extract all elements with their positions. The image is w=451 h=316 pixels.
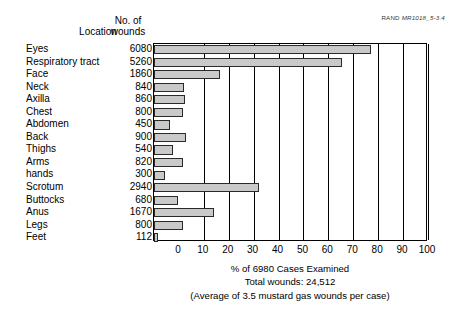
bar-row [154, 69, 426, 82]
row-wound-count: 680 [135, 194, 152, 207]
bar [154, 183, 259, 192]
row-location-label: Arms [26, 156, 49, 169]
table-row: Neck840 [26, 81, 152, 94]
row-location-label: Eyes [26, 43, 48, 56]
bar-row [154, 207, 426, 220]
plot-area [153, 43, 427, 241]
row-wound-count: 860 [135, 93, 152, 106]
bar-row [154, 107, 426, 120]
row-location-label: Anus [26, 206, 49, 219]
bar-row [154, 169, 426, 182]
row-location-label: Legs [26, 219, 48, 232]
column-header-wounds: No. of wounds [104, 15, 152, 38]
column-header-wounds-line2: wounds [104, 26, 152, 37]
table-row: Buttocks680 [26, 194, 152, 207]
row-wound-count: 1670 [130, 206, 152, 219]
bar [154, 208, 214, 217]
row-wound-count: 450 [135, 118, 152, 131]
table-row: Chest800 [26, 106, 152, 119]
bar-row [154, 44, 426, 57]
table-row: Axilla860 [26, 93, 152, 106]
row-wound-count: 820 [135, 156, 152, 169]
row-location-label: Scrotum [26, 181, 63, 194]
row-wound-count: 300 [135, 168, 152, 181]
table-row: Scrotum2940 [26, 181, 152, 194]
caption-line-1: % of 6980 Cases Examined [153, 262, 427, 275]
table-row: Legs800 [26, 219, 152, 232]
caption-line-3: (Average of 3.5 mustard gas wounds per c… [153, 289, 427, 302]
bar-row [154, 157, 426, 170]
bar-row [154, 94, 426, 107]
row-location-label: Respiratory tract [26, 56, 99, 69]
table-row: Feet112 [26, 231, 152, 244]
bar-row [154, 144, 426, 157]
table-row: Thighs540 [26, 143, 152, 156]
row-location-label: Buttocks [26, 194, 64, 207]
table-row: Eyes6080 [26, 43, 152, 56]
source-tag-prefix: RAND [381, 14, 401, 21]
table-row: Arms820 [26, 156, 152, 169]
gridline [428, 44, 429, 240]
table-row: hands300 [26, 168, 152, 181]
table-row: Respiratory tract5260 [26, 56, 152, 69]
bar [154, 58, 342, 67]
table-row: Face1860 [26, 68, 152, 81]
column-header-wounds-line1: No. of [104, 15, 152, 26]
source-tag: RAND MR1018_5-3.4 [381, 14, 445, 21]
row-location-label: hands [26, 168, 53, 181]
row-wound-count: 6080 [130, 43, 152, 56]
figure-container: RAND MR1018_5-3.4 Location No. of wounds… [0, 0, 451, 316]
chart-caption: % of 6980 Cases Examined Total wounds: 2… [153, 262, 427, 302]
row-wound-count: 1860 [130, 68, 152, 81]
bar-row [154, 220, 426, 233]
row-wound-count: 840 [135, 81, 152, 94]
bar-row [154, 195, 426, 208]
row-location-label: Neck [26, 81, 49, 94]
bar [154, 108, 183, 117]
bar-row [154, 57, 426, 70]
bar-row [154, 132, 426, 145]
table-row: Back900 [26, 131, 152, 144]
row-location-label: Axilla [26, 93, 50, 106]
bar [154, 95, 185, 104]
bar-row [154, 232, 426, 245]
row-wound-count: 2940 [130, 181, 152, 194]
row-location-label: Feet [26, 231, 46, 244]
source-tag-code: MR1018_5-3.4 [402, 14, 445, 21]
row-wound-count: 5260 [130, 56, 152, 69]
bar [154, 120, 170, 129]
row-location-label: Chest [26, 106, 52, 119]
bar [154, 83, 184, 92]
row-location-label: Back [26, 131, 48, 144]
row-location-label: Thighs [26, 143, 56, 156]
caption-line-2: Total wounds: 24,512 [153, 275, 427, 288]
x-axis-tick-labels: 0102030405060708090100 [153, 244, 451, 258]
bar [154, 158, 183, 167]
row-wound-count: 540 [135, 143, 152, 156]
row-location-label: Abdomen [26, 118, 69, 131]
bar [154, 133, 186, 142]
row-wound-count: 800 [135, 106, 152, 119]
bar [154, 171, 165, 180]
bar [154, 233, 158, 242]
row-wound-count: 800 [135, 219, 152, 232]
row-wound-count: 112 [136, 231, 152, 244]
bar-series [154, 44, 426, 240]
bar [154, 196, 178, 205]
row-location-label: Face [26, 68, 48, 81]
x-tick-label: 100 [412, 244, 442, 255]
bar [154, 45, 371, 54]
bar [154, 145, 173, 154]
table-row: Abdomen450 [26, 118, 152, 131]
bar-row [154, 119, 426, 132]
table-row: Anus1670 [26, 206, 152, 219]
row-label-list: Eyes6080Respiratory tract5260Face1860Nec… [26, 43, 152, 244]
bar [154, 221, 183, 230]
bar [154, 70, 220, 79]
bar-row [154, 182, 426, 195]
row-wound-count: 900 [135, 131, 152, 144]
bar-row [154, 82, 426, 95]
